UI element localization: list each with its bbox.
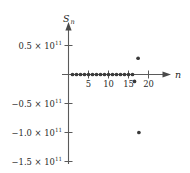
data-point <box>127 73 131 77</box>
data-point-group <box>71 56 141 134</box>
y-tick-label: 0.5 × 1011 <box>19 40 62 50</box>
x-tick-label: 5 <box>86 79 91 89</box>
x-axis-arrow-icon <box>163 71 172 77</box>
data-point <box>111 73 115 77</box>
x-axis-title: n <box>175 69 181 80</box>
data-point <box>95 73 99 77</box>
data-point <box>131 73 135 77</box>
scatter-plot-figure: 0.5 × 1011−0.5 × 1011−1.0 × 1011−1.5 × 1… <box>0 0 190 173</box>
x-tick-label: 10 <box>103 79 114 89</box>
y-tick-label: −0.5 × 1011 <box>12 98 62 108</box>
x-tick-label: 15 <box>123 79 134 89</box>
y-axis-title-subscript: n <box>71 18 75 26</box>
y-tick-label: −1.0 × 1011 <box>12 127 62 137</box>
data-point <box>119 73 123 77</box>
data-point <box>83 73 87 77</box>
data-point <box>75 73 79 77</box>
data-point <box>133 80 137 84</box>
x-tick-label-group: 5101520 <box>86 79 154 89</box>
axes-group <box>62 22 171 164</box>
data-point <box>91 73 95 77</box>
data-point <box>103 73 107 77</box>
data-point <box>71 73 75 77</box>
y-axis-title-symbol: S <box>63 13 70 24</box>
y-tick-label: −1.5 × 1011 <box>12 156 62 166</box>
x-tick-label: 20 <box>143 79 154 89</box>
data-point <box>137 131 141 135</box>
data-point <box>99 73 103 77</box>
data-point <box>107 73 111 77</box>
data-point <box>79 73 83 77</box>
data-point <box>87 73 91 77</box>
data-point <box>123 73 127 77</box>
y-tick-label-group: 0.5 × 1011−0.5 × 1011−1.0 × 1011−1.5 × 1… <box>12 40 62 166</box>
plot-canvas: 0.5 × 1011−0.5 × 1011−1.0 × 1011−1.5 × 1… <box>0 0 190 173</box>
data-point <box>136 56 140 60</box>
data-point <box>115 73 119 77</box>
